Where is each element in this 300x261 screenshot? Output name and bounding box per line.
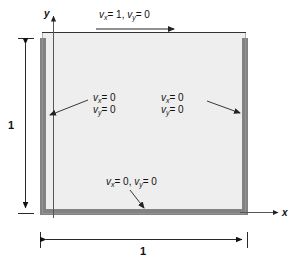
- height-dimension-label: 1: [8, 119, 14, 131]
- right-boundary-condition-label: vx= 0 vy= 0: [161, 92, 184, 116]
- right-bc-line-vy: vy= 0: [161, 104, 184, 116]
- bottom-boundary-condition-label: vx= 0, vy= 0: [106, 176, 157, 187]
- top-boundary-condition-label: vx= 1, vy= 0: [99, 9, 150, 20]
- cavity-flow-diagram: y x 1 1 vx= 1, vy= 0 vx= 0 vy= 0 vx= 0 v…: [0, 0, 300, 261]
- left-boundary-condition-label: vx= 0 vy= 0: [93, 92, 116, 116]
- right-wall-shape: [242, 38, 248, 214]
- diagram-canvas: [0, 0, 300, 261]
- bottom-wall-shape: [40, 209, 248, 215]
- left-wall-shape: [40, 38, 46, 214]
- width-dimension-label: 1: [140, 245, 146, 257]
- x-axis-label: x: [282, 207, 288, 218]
- left-bc-line-vx: vx= 0: [93, 92, 116, 104]
- y-axis-label: y: [44, 8, 50, 19]
- right-bc-line-vx: vx= 0: [161, 92, 184, 104]
- left-bc-line-vy: vy= 0: [93, 104, 116, 116]
